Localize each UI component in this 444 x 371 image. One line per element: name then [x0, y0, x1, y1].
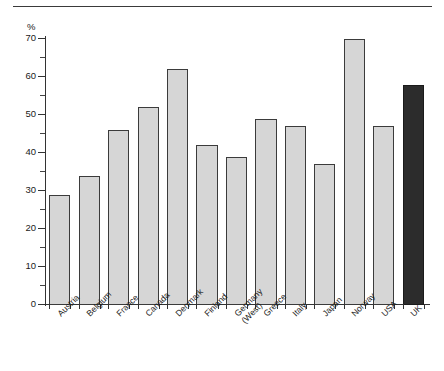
bar-chart-figure: % 010203040506070 AustriaBelgiumFranceCa…: [0, 0, 444, 371]
x-label-denmark: Denmark: [174, 287, 205, 318]
x-label-france: France: [115, 293, 141, 319]
x-label-canada: Canada: [144, 291, 172, 319]
x-label-austria: Austria: [56, 293, 82, 319]
x-label-italy: Italy: [291, 301, 309, 319]
x-label-belgium: Belgium: [85, 290, 114, 319]
x-label-usa: USA: [380, 300, 399, 319]
x-label-japan: Japan: [321, 295, 344, 318]
x-label-uk: UK: [409, 304, 424, 319]
x-axis-category-labels: AustriaBelgiumFranceCanadaDenmarkFinland…: [0, 0, 444, 371]
x-label-finland: Finland: [203, 292, 230, 319]
x-label-norway: Norway: [350, 291, 377, 318]
